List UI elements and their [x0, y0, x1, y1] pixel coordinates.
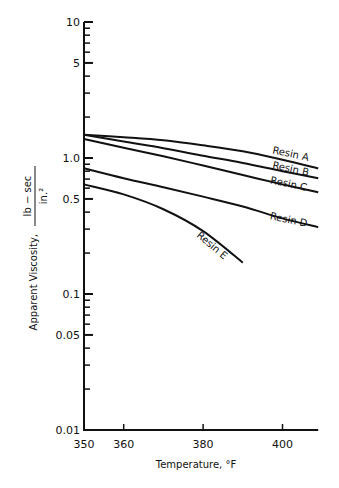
x-tick-label: 360 — [113, 438, 134, 451]
series-label-resin-d: Resin D — [269, 210, 309, 229]
series-label-resin-c: Resin C — [269, 174, 308, 192]
y-tick-label: 0.01 — [56, 424, 81, 437]
x-tick-label: 380 — [193, 438, 214, 451]
y-tick-label: 0.5 — [63, 193, 81, 206]
y-tick-label: 0.1 — [63, 288, 81, 301]
series-label-resin-e: Resin E — [195, 229, 230, 261]
y-tick-label: 1.0 — [63, 152, 81, 165]
x-tick-label: 350 — [74, 438, 95, 451]
y-tick-label: 5 — [73, 57, 80, 70]
y-axis-unit-denominator: in.² — [38, 188, 49, 204]
axes: 1051.00.50.10.050.01350360380400 — [56, 16, 319, 451]
viscosity-chart: 1051.00.50.10.050.01350360380400 Resin A… — [0, 0, 339, 488]
y-axis-unit-numerator: lb − sec — [22, 176, 33, 217]
y-tick-label: 0.05 — [56, 329, 81, 342]
x-tick-label: 400 — [272, 438, 293, 451]
y-axis-title: Apparent Viscosity, lb − sec in.² — [22, 166, 49, 330]
y-tick-label: 10 — [66, 16, 80, 29]
x-axis-title: Temperature, °F — [155, 459, 237, 470]
y-axis-title-prefix: Apparent Viscosity, — [28, 234, 39, 330]
